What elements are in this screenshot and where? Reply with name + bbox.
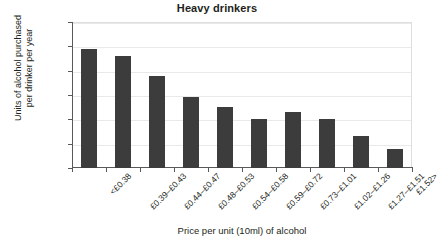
bar	[183, 97, 199, 168]
bar-slot	[310, 22, 344, 168]
bar	[285, 112, 301, 168]
bar	[251, 119, 267, 168]
bar-slot	[106, 22, 140, 168]
bar	[217, 107, 233, 168]
y-axis-title: Units of alcohol purchased per drinker p…	[13, 0, 35, 148]
x-axis-title: Price per unit (10ml) of alcohol	[72, 225, 412, 236]
bar-slot	[72, 22, 106, 168]
bar-slot	[140, 22, 174, 168]
bar-slot	[208, 22, 242, 168]
bar-slot	[344, 22, 378, 168]
chart-title: Heavy drinkers	[0, 2, 434, 14]
bar-series	[72, 22, 412, 168]
x-axis-tick-mark	[412, 168, 413, 172]
bar	[319, 119, 335, 168]
bar	[353, 136, 369, 168]
bar-slot	[174, 22, 208, 168]
bar	[149, 76, 165, 168]
bar-slot	[242, 22, 276, 168]
x-axis-tick-labels: <£0.38£0.39–£0.43£0.44–£0.47£0.48–£0.53£…	[72, 171, 412, 223]
x-axis-tick-label: <£0.38	[108, 171, 134, 197]
bar-slot	[378, 22, 412, 168]
bar	[387, 149, 403, 168]
bar	[115, 56, 131, 168]
bar	[81, 49, 97, 168]
bar-slot	[276, 22, 310, 168]
